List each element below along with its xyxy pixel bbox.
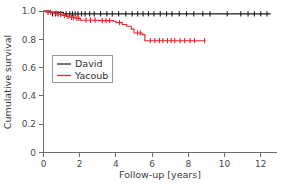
x-tick-label: 10 (219, 159, 231, 169)
y-tick-label: 0.2 (22, 119, 36, 129)
y-tick-label: 1.0 (22, 6, 37, 16)
x-tick-label: 4 (113, 159, 119, 169)
x-axis-tick-labels: 024681012 (41, 159, 267, 169)
x-tick-label: 6 (149, 159, 155, 169)
series-layer (44, 10, 271, 44)
y-tick-label: 0.6 (22, 63, 37, 73)
y-tick-label: 0 (30, 148, 36, 158)
series-david (44, 11, 271, 16)
x-axis-ticks (44, 153, 261, 158)
x-tick-label: 2 (77, 159, 83, 169)
y-axis-ticks (39, 11, 44, 153)
y-tick-label: 0.4 (22, 91, 37, 101)
x-tick-label: 8 (185, 159, 191, 169)
y-tick-label: 0.8 (22, 35, 37, 45)
kaplan-meier-survival-chart: 00.20.40.60.81.0 024681012 DavidYacoub F… (0, 0, 291, 184)
legend-label-david: David (75, 58, 102, 69)
chart-canvas: 00.20.40.60.81.0 024681012 DavidYacoub F… (0, 0, 291, 184)
x-tick-label: 12 (255, 159, 266, 169)
series-yacoub (44, 10, 206, 44)
y-axis-title: Cumulative survival (2, 35, 13, 129)
legend: DavidYacoub (53, 56, 113, 83)
x-tick-label: 0 (41, 159, 47, 169)
legend-label-yacoub: Yacoub (74, 70, 108, 81)
x-axis-title: Follow-up [years] (119, 169, 201, 180)
y-axis-tick-labels: 00.20.40.60.81.0 (22, 6, 37, 158)
x-axis-group: 024681012 (41, 153, 277, 170)
y-axis-group: 00.20.40.60.81.0 (22, 6, 44, 158)
